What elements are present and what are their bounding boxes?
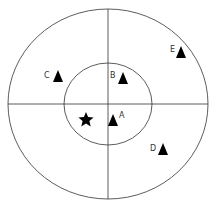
marker-label: B [110,71,116,80]
marker-d: D [150,143,168,155]
marker-b: B [110,71,128,84]
marker-label: C [44,71,50,80]
quadrant-diagram: A B C D E [0,0,213,211]
triangle-icon [158,143,168,155]
triangle-icon [53,70,63,82]
marker-a: A [108,111,125,126]
marker-e: E [170,45,186,58]
triangle-icon [108,114,118,126]
marker-c: C [44,70,63,82]
triangle-icon [118,72,128,84]
triangle-icon [176,46,186,58]
marker-label: A [119,111,125,120]
star-icon [78,112,93,126]
marker-label: D [150,144,156,153]
marker-label: E [170,45,175,54]
